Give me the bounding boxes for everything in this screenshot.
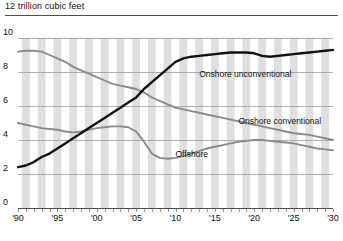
series-line	[18, 51, 333, 140]
year-band	[132, 38, 140, 208]
x-axis-tick-label: '15	[203, 214, 227, 223]
year-band	[53, 38, 61, 208]
x-axis-tick-label: '30	[321, 214, 343, 223]
year-band	[101, 38, 109, 208]
year-band	[38, 38, 46, 208]
y-axis-tick-label: 6	[3, 96, 8, 105]
chart-container: 12 trillion cubic feet 0246810 '90'95'00…	[0, 0, 343, 241]
year-band	[164, 38, 172, 208]
y-axis-tick-label: 0	[3, 198, 8, 207]
y-axis-tick-label: 4	[3, 130, 8, 139]
year-band	[85, 38, 93, 208]
year-band	[211, 38, 219, 208]
year-band	[195, 38, 203, 208]
series-label-onshore-conventional: Onshore conventional	[239, 116, 322, 126]
y-axis-tick-label: 8	[3, 62, 8, 71]
y-axis-tick-label: 10	[3, 28, 13, 37]
y-axis-tick-label: 2	[3, 164, 8, 173]
year-band	[148, 38, 156, 208]
year-band	[69, 38, 77, 208]
series-label-offshore: Offshore	[176, 149, 208, 159]
year-band	[22, 38, 30, 208]
x-axis-tick-label: '95	[45, 214, 69, 223]
x-axis-ticks	[19, 209, 334, 212]
x-axis-tick-label: '10	[164, 214, 188, 223]
series-label-onshore-unconventional: Onshore unconventional	[199, 69, 291, 79]
x-axis-tick-label: '90	[6, 214, 30, 223]
year-band	[321, 38, 329, 208]
x-axis-tick-label: '25	[282, 214, 306, 223]
year-band	[116, 38, 124, 208]
year-band	[179, 38, 187, 208]
year-band	[227, 38, 235, 208]
x-axis-tick-label: '00	[85, 214, 109, 223]
x-axis-tick-label: '20	[242, 214, 266, 223]
x-axis-tick-label: '05	[124, 214, 148, 223]
